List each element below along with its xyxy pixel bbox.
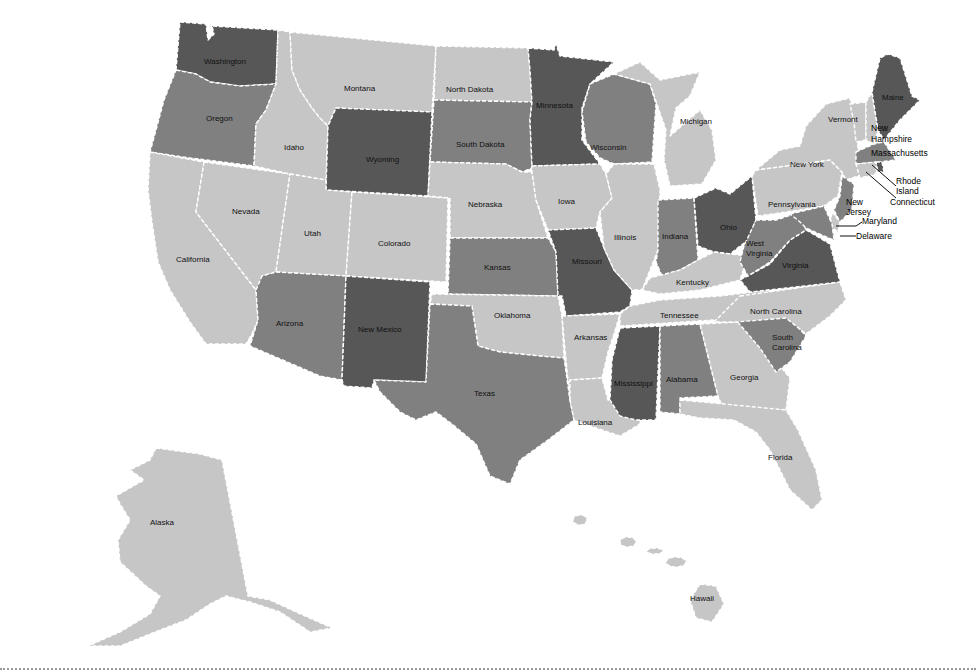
- state-wyoming[interactable]: [326, 108, 432, 196]
- svg-text:Missouri: Missouri: [572, 257, 602, 266]
- svg-text:Pennsylvania: Pennsylvania: [768, 200, 816, 209]
- svg-text:New: New: [846, 197, 864, 207]
- svg-text:Louisiana: Louisiana: [578, 418, 613, 427]
- svg-text:Oklahoma: Oklahoma: [494, 311, 531, 320]
- svg-text:Delaware: Delaware: [856, 231, 892, 241]
- svg-text:Montana: Montana: [344, 84, 376, 93]
- svg-text:Oregon: Oregon: [206, 114, 233, 123]
- svg-text:Washington: Washington: [204, 57, 246, 66]
- svg-text:New Mexico: New Mexico: [358, 325, 402, 334]
- svg-text:Arizona: Arizona: [276, 319, 304, 328]
- svg-text:Maryland: Maryland: [862, 216, 897, 226]
- svg-text:Minnesota: Minnesota: [536, 101, 573, 110]
- svg-text:California: California: [176, 255, 210, 264]
- dotted-divider: [0, 668, 976, 670]
- svg-text:Virginia: Virginia: [782, 261, 809, 270]
- svg-text:Iowa: Iowa: [558, 197, 575, 206]
- svg-text:Colorado: Colorado: [378, 239, 411, 248]
- svg-text:Virginia: Virginia: [746, 249, 773, 258]
- state-mississippi[interactable]: [610, 326, 660, 420]
- svg-text:Tennessee: Tennessee: [660, 311, 699, 320]
- svg-text:West: West: [746, 239, 765, 248]
- svg-text:New: New: [871, 123, 889, 133]
- svg-text:Nevada: Nevada: [232, 207, 260, 216]
- state-hawaii[interactable]: [573, 515, 724, 622]
- state-colorado[interactable]: [346, 192, 448, 282]
- svg-text:Hampshire: Hampshire: [871, 134, 912, 144]
- svg-text:North Dakota: North Dakota: [446, 85, 494, 94]
- svg-text:Idaho: Idaho: [284, 143, 305, 152]
- svg-text:New York: New York: [790, 160, 825, 169]
- svg-text:South Dakota: South Dakota: [456, 140, 505, 149]
- svg-text:Ohio: Ohio: [720, 223, 737, 232]
- svg-text:Carolina: Carolina: [772, 343, 802, 352]
- svg-text:Vermont: Vermont: [828, 115, 859, 124]
- svg-text:Texas: Texas: [474, 389, 495, 398]
- svg-text:Rhode: Rhode: [896, 176, 921, 186]
- state-florida[interactable]: [680, 400, 822, 510]
- svg-text:Kentucky: Kentucky: [676, 278, 709, 287]
- svg-text:Wisconsin: Wisconsin: [590, 143, 626, 152]
- svg-text:Nebraska: Nebraska: [468, 200, 503, 209]
- svg-text:Alabama: Alabama: [666, 375, 698, 384]
- svg-text:Kansas: Kansas: [484, 263, 511, 272]
- svg-text:Maine: Maine: [882, 93, 904, 102]
- state-alaska[interactable]: [88, 448, 332, 646]
- state-rhode-island[interactable]: [876, 162, 884, 172]
- state-connecticut[interactable]: [856, 162, 876, 178]
- svg-text:Hawaii: Hawaii: [690, 594, 714, 603]
- svg-text:Wyoming: Wyoming: [366, 155, 399, 164]
- us-choropleth-map: Washington Oregon California Nevada Idah…: [0, 0, 976, 672]
- svg-text:Florida: Florida: [768, 453, 793, 462]
- svg-text:Michigan: Michigan: [680, 117, 712, 126]
- svg-text:Massachusetts: Massachusetts: [871, 148, 928, 158]
- svg-text:Georgia: Georgia: [730, 373, 759, 382]
- svg-text:North Carolina: North Carolina: [750, 307, 802, 316]
- svg-text:Indiana: Indiana: [662, 232, 689, 241]
- svg-text:Alaska: Alaska: [150, 518, 175, 527]
- svg-text:South: South: [772, 333, 793, 342]
- svg-text:Utah: Utah: [304, 229, 321, 238]
- svg-text:Illinois: Illinois: [614, 233, 636, 242]
- state-south-dakota[interactable]: [430, 100, 532, 172]
- svg-text:Island: Island: [896, 186, 919, 196]
- svg-text:Connecticut: Connecticut: [890, 197, 936, 207]
- svg-text:Arkansas: Arkansas: [574, 333, 607, 342]
- svg-text:Mississippi: Mississippi: [614, 379, 653, 388]
